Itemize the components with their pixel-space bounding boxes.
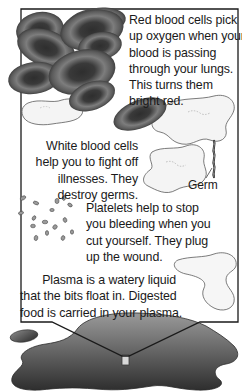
blood-composition-diagram: Red blood cells pick up oxygen when your… [0,0,242,392]
germ [206,141,215,178]
germ-label: Germ [188,178,218,192]
white-blood-cells-text: White blood cells help you to fight off … [30,138,138,203]
blood-puddle [9,313,237,390]
plasma-text: Plasma is a watery liquid that the bits … [20,272,176,321]
platelets-text: Platelets help to stop you bleeding when… [86,200,211,265]
red-blood-cells-text: Red blood cells pick up oxygen when your… [129,12,242,110]
